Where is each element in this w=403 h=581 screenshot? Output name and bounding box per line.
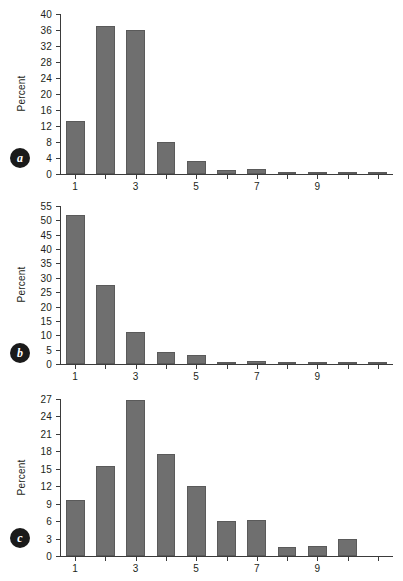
- bar: [217, 521, 236, 556]
- x-tick-label: 7: [254, 563, 260, 574]
- y-tick-label: 16: [40, 105, 52, 116]
- y-tick-mark: [56, 350, 60, 351]
- x-tick-label: 9: [314, 371, 320, 382]
- x-tick-mark: [317, 365, 318, 369]
- y-tick-mark: [56, 321, 60, 322]
- x-tick-mark: [196, 175, 197, 179]
- plot-area-a: 048121620242832364013579: [60, 14, 393, 174]
- y-tick-label: 35: [40, 258, 52, 269]
- chart-panel-b: bPercent051015202530354045505513579: [0, 192, 403, 384]
- x-tick-mark: [287, 557, 288, 561]
- bar: [96, 466, 115, 556]
- y-tick-label: 40: [40, 244, 52, 255]
- y-tick-label: 18: [40, 446, 52, 457]
- y-tick-mark: [56, 486, 60, 487]
- y-tick-mark: [56, 278, 60, 279]
- x-tick-mark: [227, 365, 228, 369]
- y-tick-mark: [56, 263, 60, 264]
- x-tick-mark: [227, 557, 228, 561]
- x-tick-mark: [166, 557, 167, 561]
- y-tick-label: 4: [46, 153, 52, 164]
- y-tick-label: 8: [46, 137, 52, 148]
- y-tick-label: 20: [40, 89, 52, 100]
- y-tick-label: 28: [40, 57, 52, 68]
- y-tick-label: 36: [40, 25, 52, 36]
- y-tick-mark: [56, 399, 60, 400]
- y-tick-label: 50: [40, 215, 52, 226]
- panel-label-b: b: [10, 343, 30, 363]
- y-tick-label: 45: [40, 229, 52, 240]
- y-tick-mark: [56, 110, 60, 111]
- x-tick-mark: [75, 557, 76, 561]
- y-tick-mark: [56, 46, 60, 47]
- y-axis-line: [60, 14, 61, 174]
- x-tick-label: 1: [72, 563, 78, 574]
- y-tick-mark: [56, 469, 60, 470]
- y-tick-mark: [56, 174, 60, 175]
- y-tick-mark: [56, 335, 60, 336]
- y-tick-label: 25: [40, 287, 52, 298]
- chart-panel-a: aPercent048121620242832364013579: [0, 0, 403, 192]
- bar: [187, 486, 206, 556]
- y-tick-label: 5: [46, 344, 52, 355]
- bar: [157, 454, 176, 556]
- x-tick-label: 5: [193, 371, 199, 382]
- x-tick-label: 7: [254, 181, 260, 192]
- x-tick-mark: [317, 557, 318, 561]
- y-tick-mark: [56, 416, 60, 417]
- y-axis-line: [60, 206, 61, 364]
- bar: [66, 121, 85, 174]
- plot-area-c: 036912151821242713579: [60, 399, 393, 556]
- bar: [308, 172, 327, 174]
- y-tick-label: 15: [40, 463, 52, 474]
- y-tick-label: 20: [40, 301, 52, 312]
- y-tick-mark: [56, 434, 60, 435]
- x-tick-label: 1: [72, 181, 78, 192]
- bar: [308, 362, 327, 364]
- x-tick-label: 3: [133, 563, 139, 574]
- bar: [278, 547, 297, 556]
- bar: [96, 285, 115, 364]
- bar: [368, 172, 387, 174]
- bar: [66, 500, 85, 556]
- plot-area-b: 051015202530354045505513579: [60, 206, 393, 364]
- y-tick-label: 0: [46, 169, 52, 180]
- y-tick-label: 24: [40, 73, 52, 84]
- y-tick-mark: [56, 364, 60, 365]
- x-tick-mark: [257, 175, 258, 179]
- y-axis-title: Percent: [16, 250, 27, 320]
- x-tick-label: 9: [314, 181, 320, 192]
- x-tick-label: 9: [314, 563, 320, 574]
- x-tick-mark: [166, 175, 167, 179]
- y-tick-label: 3: [46, 533, 52, 544]
- x-tick-mark: [166, 365, 167, 369]
- x-tick-mark: [348, 175, 349, 179]
- x-tick-mark: [136, 365, 137, 369]
- bar: [126, 30, 145, 174]
- y-tick-mark: [56, 307, 60, 308]
- x-tick-mark: [227, 175, 228, 179]
- x-tick-mark: [196, 365, 197, 369]
- y-tick-mark: [56, 14, 60, 15]
- y-tick-label: 0: [46, 359, 52, 370]
- y-tick-mark: [56, 451, 60, 452]
- y-tick-mark: [56, 556, 60, 557]
- x-tick-mark: [75, 175, 76, 179]
- bar: [247, 361, 266, 364]
- y-tick-label: 6: [46, 516, 52, 527]
- y-axis-title: Percent: [16, 442, 27, 512]
- y-tick-label: 0: [46, 551, 52, 562]
- x-tick-label: 1: [72, 371, 78, 382]
- y-tick-label: 30: [40, 272, 52, 283]
- x-tick-mark: [257, 557, 258, 561]
- y-tick-label: 24: [40, 411, 52, 422]
- bar: [187, 355, 206, 364]
- y-tick-mark: [56, 220, 60, 221]
- y-tick-label: 55: [40, 201, 52, 212]
- x-tick-mark: [136, 175, 137, 179]
- bar: [126, 332, 145, 364]
- x-tick-mark: [257, 365, 258, 369]
- x-tick-mark: [317, 175, 318, 179]
- y-tick-label: 10: [40, 330, 52, 341]
- chart-panel-c: cPercent036912151821242713579: [0, 385, 403, 581]
